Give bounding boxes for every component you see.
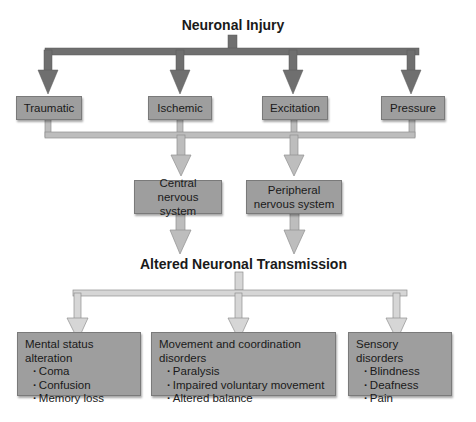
outcome-item: Memory loss <box>33 392 133 406</box>
cause-box-traumatic: Traumatic <box>16 96 82 120</box>
outcome-heading: Mental status alteration <box>25 338 133 365</box>
title-altered-transmission: Altered Neuronal Transmission <box>140 256 340 272</box>
outcome-item: Altered balance <box>167 392 328 406</box>
outcome-item: Deafness <box>364 379 444 393</box>
cause-box-pressure: Pressure <box>381 96 445 120</box>
outcome-box-sensory: Sensory disorders Blindness Deafness Pai… <box>348 332 452 396</box>
system-box-peripheral: Peripheral nervous system <box>246 180 342 214</box>
outcome-item: Coma <box>33 365 133 379</box>
outcome-item: Pain <box>364 392 444 406</box>
outcome-box-mental: Mental status alteration Coma Confusion … <box>17 332 141 396</box>
outcome-item: Impaired voluntary movement <box>167 379 328 393</box>
cause-box-excitation: Excitation <box>262 96 328 120</box>
outcome-item: Confusion <box>33 379 133 393</box>
title-neuronal-injury: Neuronal Injury <box>168 17 298 33</box>
outcome-heading: Sensory disorders <box>356 338 444 365</box>
outcome-item: Blindness <box>364 365 444 379</box>
cause-box-ischemic: Ischemic <box>148 96 212 120</box>
outcome-box-movement: Movement and coordination disorders Para… <box>151 332 336 396</box>
injury-arrows <box>38 35 421 94</box>
system-box-central: Central nervous system <box>134 180 222 214</box>
cause-to-system-arrows <box>45 119 415 254</box>
outcome-heading: Movement and coordination disorders <box>159 338 328 365</box>
outcome-item: Paralysis <box>167 365 328 379</box>
transmission-arrows <box>67 272 407 340</box>
